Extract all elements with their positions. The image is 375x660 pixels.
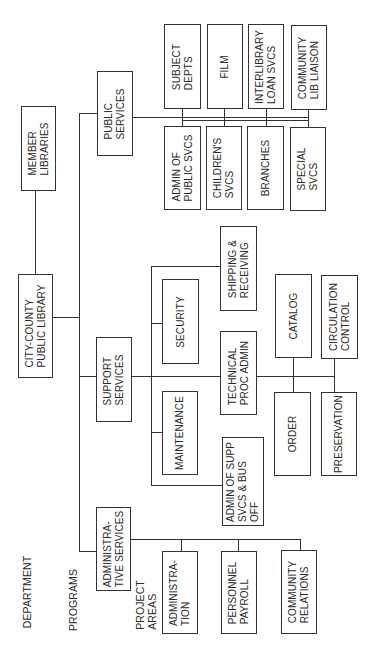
level-label-programs: PROGRAMS (63, 568, 83, 632)
node-special-svcs: SPECIAL SVCS (290, 127, 326, 211)
node-label: PERSONNEL PAYROLL (227, 561, 251, 624)
node-label: SUPPORT SERVICES (102, 354, 126, 405)
connector-public-drop-2 (224, 109, 225, 126)
level-label-text: DEPARTMENT (21, 556, 33, 628)
level-label-text: PROGRAMS (67, 569, 79, 631)
node-label: MEMBER LIBRARIES (27, 122, 51, 175)
connector-tech-drop-2 (334, 359, 335, 392)
connector-public-drop-4 (308, 110, 309, 127)
node-label: CITY-COUNTY PUBLIC LIBRARY (24, 285, 48, 368)
connector-tech-drop-1 (293, 358, 294, 392)
node-preservation: PRESERVATION (321, 392, 357, 476)
node-label: SUBJECT DEPTS (171, 43, 195, 89)
node-label: FILM (219, 55, 231, 78)
level-label-department: DEPARTMENT (17, 552, 37, 632)
node-label: TECHNICAL PROC ADMIN (227, 341, 251, 405)
connector-support-bus (132, 376, 220, 377)
node-security: SECURITY (162, 279, 199, 364)
node-label: ORDER (287, 416, 299, 453)
node-subject-depts: SUBJECT DEPTS (164, 24, 201, 109)
connector-trunk-to-public (79, 113, 97, 114)
node-administrative-services: ADMINISTRA- TIVE SERVICES (96, 507, 131, 591)
node-label: SECURITY (175, 296, 187, 347)
node-branches: BRANCHES (247, 126, 284, 210)
node-public-services: PUBLIC SERVICES (97, 71, 133, 156)
node-shipping-receiving: SHIPPING & RECEIVING (220, 226, 257, 311)
connector-to-maintenance (151, 432, 162, 433)
node-label: BRANCHES (260, 140, 272, 196)
node-label: ADMINISTRA- TIVE SERVICES (102, 511, 126, 588)
node-admin-of-public-svcs: ADMIN OF PUBLIC SVCS (164, 126, 201, 210)
node-label: COMMUNITY LIB LIAISON (297, 36, 321, 99)
node-label: ADMIN OF SUPP SVCS & BUS OFF (225, 441, 261, 521)
node-member-libraries: MEMBER LIBRARIES (21, 106, 56, 191)
node-label: CIRCULATION CONTROL (328, 283, 352, 351)
node-label: CHILDREN'S SVCS (212, 138, 236, 199)
node-support-services: SUPPORT SERVICES (96, 337, 132, 422)
node-technical-proc-admin: TECHNICAL PROC ADMIN (220, 331, 257, 415)
connector-to-admin-supp (151, 485, 222, 486)
level-label-text: PROJECT AREAS (134, 580, 158, 630)
node-label: SHIPPING & RECEIVING (227, 239, 251, 297)
connector-technical-bus (257, 376, 335, 377)
node-maintenance: MAINTENANCE (162, 391, 198, 475)
connector-admin-drop-1 (181, 539, 182, 551)
node-personnel-payroll: PERSONNEL PAYROLL (221, 551, 257, 634)
connector-trunk-to-admin (79, 551, 96, 552)
node-community-relations: COMMUNITY RELATIONS (281, 550, 317, 634)
connector-public-drop-3 (266, 109, 267, 126)
node-label: SPECIAL SVCS (296, 148, 320, 191)
connector-public-drop-1 (182, 109, 183, 126)
connector-public-bus-2 (182, 120, 309, 121)
node-order: ORDER (274, 392, 311, 476)
node-label: ADMIN OF PUBLIC SVCS (171, 134, 195, 201)
connector-admin-bus (131, 539, 301, 540)
node-circulation-control: CIRCULATION CONTROL (321, 275, 358, 359)
connector-admin-drop-2 (238, 539, 239, 551)
node-label: PRESERVATION (333, 395, 345, 473)
node-catalog: CATALOG (275, 274, 312, 358)
node-label: INTERLIBRARY LOAN SVCS (254, 30, 278, 104)
node-administration: ADMINISTRA- TION (162, 551, 198, 634)
connector-public-bus (133, 117, 308, 118)
connector-trunk-to-support (79, 376, 96, 377)
node-city-county-public-library: CITY-COUNTY PUBLIC LIBRARY (18, 274, 53, 378)
connector-support-branch (151, 266, 152, 485)
node-label: CATALOG (288, 292, 300, 339)
node-label: PUBLIC SERVICES (103, 88, 127, 139)
connector-program-trunk (79, 113, 80, 552)
connector-root-to-trunk (53, 317, 79, 318)
node-label: COMMUNITY RELATIONS (287, 561, 311, 624)
node-label: ADMINISTRA- TION (168, 559, 192, 625)
node-childrens-svcs: CHILDREN'S SVCS (206, 126, 242, 210)
node-film: FILM (207, 24, 243, 109)
node-community-lib-liaison: COMMUNITY LIB LIAISON (291, 25, 327, 110)
connector-to-security (151, 323, 162, 324)
node-interlibrary-loan-svcs: INTERLIBRARY LOAN SVCS (248, 24, 284, 109)
node-label: MAINTENANCE (174, 396, 186, 470)
node-admin-of-supp-svcs-bus-off: ADMIN OF SUPP SVCS & BUS OFF (222, 437, 264, 526)
connector-member-to-root (35, 191, 36, 274)
level-label-project-areas: PROJECT AREAS (132, 578, 160, 632)
connector-to-shipping (151, 266, 220, 267)
